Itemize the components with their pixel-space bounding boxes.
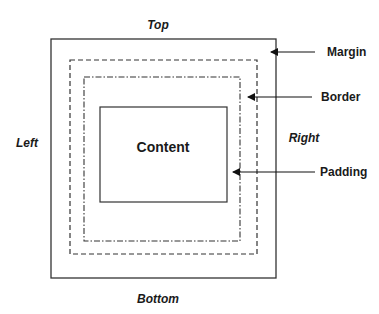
label-bottom: Bottom <box>137 292 179 306</box>
diagram-svg: Top Bottom Left Right Content Margin Bor… <box>0 0 379 314</box>
padding-box <box>84 77 240 241</box>
label-content: Content <box>137 139 190 155</box>
label-left: Left <box>16 136 39 150</box>
callout-margin: Margin <box>327 45 366 59</box>
margin-box <box>51 39 276 278</box>
box-model-diagram: Top Bottom Left Right Content Margin Bor… <box>0 0 379 314</box>
callout-border: Border <box>321 90 361 104</box>
border-box <box>70 60 257 254</box>
callout-padding: Padding <box>320 165 367 179</box>
label-right: Right <box>289 131 321 145</box>
label-top: Top <box>147 18 169 32</box>
